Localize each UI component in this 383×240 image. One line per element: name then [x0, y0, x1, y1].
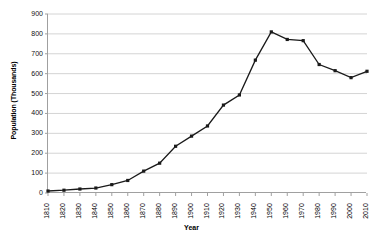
x-axis-title: Year [0, 224, 383, 231]
x-axis-tick-labels: 1810182018301840185018601870188018901900… [47, 194, 366, 224]
y-tick-label: 900 [17, 10, 43, 17]
y-tick-label: 800 [17, 30, 43, 37]
y-tick-label: 600 [17, 70, 43, 77]
y-tick-label: 500 [17, 90, 43, 97]
y-tick-label: 400 [17, 109, 43, 116]
x-tick-label: 2010 [353, 198, 379, 224]
plot-area [47, 14, 366, 193]
series-canvas [48, 14, 367, 193]
y-tick-label: 100 [17, 169, 43, 176]
y-tick-label: 200 [17, 149, 43, 156]
y-tick-label: 0 [17, 189, 43, 196]
population-line-chart: Population (Thousands) 90080070060050040… [0, 0, 383, 240]
y-tick-label: 300 [17, 129, 43, 136]
y-tick-label: 700 [17, 50, 43, 57]
